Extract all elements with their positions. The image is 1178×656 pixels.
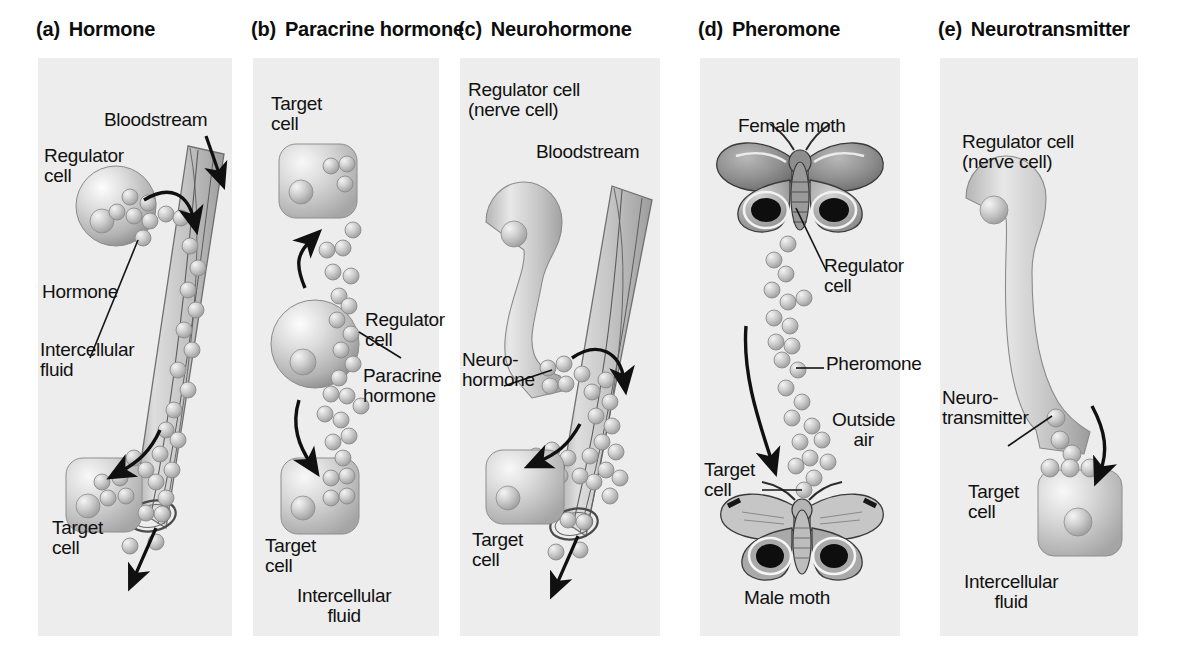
pheromone-dispersal-arrow <box>745 326 772 462</box>
panel-label-b: (b) <box>251 18 276 40</box>
label-paracrine-hormone: Paracrine hormone <box>363 366 442 406</box>
label-target-cell-top: Target cell <box>271 94 322 134</box>
label-target-cell: Target cell <box>704 460 755 500</box>
panel-caption-a: (a)Hormone <box>36 18 155 41</box>
panel-label-d: (d) <box>698 18 723 40</box>
label-bloodstream: Bloodstream <box>104 110 207 130</box>
panel-neurotransmitter: Regulator cell (nerve cell) Neuro- trans… <box>940 58 1138 636</box>
label-bloodstream: Bloodstream <box>536 142 639 162</box>
target-cell-body <box>1038 470 1122 556</box>
panel-hormone: Bloodstream Regulator cell Hormone Inter… <box>38 58 232 636</box>
label-neurotransmitter: Neuro- transmitter <box>942 388 1028 428</box>
panel-title-b: Paracrine hormone <box>285 18 464 40</box>
panel-title-e: Neurotransmitter <box>971 18 1130 40</box>
panel-neurohormone: Regulator cell (nerve cell) Bloodstream … <box>460 58 660 636</box>
label-outside-air: Outside air <box>832 410 895 450</box>
label-female-moth: Female moth <box>738 116 846 136</box>
target-cell-bottom-body <box>281 458 359 534</box>
panel-label-e: (e) <box>938 18 962 40</box>
label-target-cell: Target cell <box>472 530 523 570</box>
paracrine-down-arrow <box>296 400 311 464</box>
label-target-cell: Target cell <box>52 518 103 558</box>
target-cell-top-body <box>279 144 357 218</box>
label-regulator-cell: Regulator cell (nerve cell) <box>468 80 580 120</box>
label-pheromone: Pheromone <box>826 354 922 374</box>
panel-label-a: (a) <box>36 18 60 40</box>
panel-title-a: Hormone <box>69 18 155 40</box>
panel-paracrine-hormone: Target cell Regulator cell Paracrine hor… <box>253 58 439 636</box>
panel-caption-d: (d)Pheromone <box>698 18 840 41</box>
label-intercellular-fluid: Intercellular fluid <box>964 572 1058 612</box>
panel-caption-c: (c)Neurohormone <box>458 18 632 41</box>
paracrine-up-arrow <box>299 240 311 288</box>
label-neurohormone: Neuro- hormone <box>462 350 535 390</box>
panel-title-c: Neurohormone <box>491 18 632 40</box>
panel-caption-b: (b)Paracrine hormone <box>251 18 464 41</box>
label-hormone: Hormone <box>42 282 118 302</box>
panel-pheromone: Female moth Regulator cell Pheromone Out… <box>700 58 900 636</box>
panel-d-illustration <box>700 58 900 636</box>
label-intercellular-fluid: Intercellular fluid <box>40 340 134 380</box>
label-regulator-cell: Regulator cell <box>365 310 445 350</box>
target-cell-body <box>486 450 564 524</box>
label-intercellular-fluid: Intercellular fluid <box>297 586 391 626</box>
outflow-arrow <box>556 536 578 586</box>
panel-title-d: Pheromone <box>732 18 840 40</box>
label-target-cell-bottom: Target cell <box>265 536 316 576</box>
label-male-moth: Male moth <box>744 588 830 608</box>
panel-label-c: (c) <box>458 18 482 40</box>
panel-caption-e: (e)Neurotransmitter <box>938 18 1130 41</box>
label-target-cell: Target cell <box>968 482 1019 522</box>
outflow-arrow <box>134 528 156 578</box>
label-regulator-cell: Regulator cell (nerve cell) <box>962 132 1074 172</box>
label-regulator-cell: Regulator cell <box>824 256 904 296</box>
label-regulator-cell: Regulator cell <box>44 146 124 186</box>
